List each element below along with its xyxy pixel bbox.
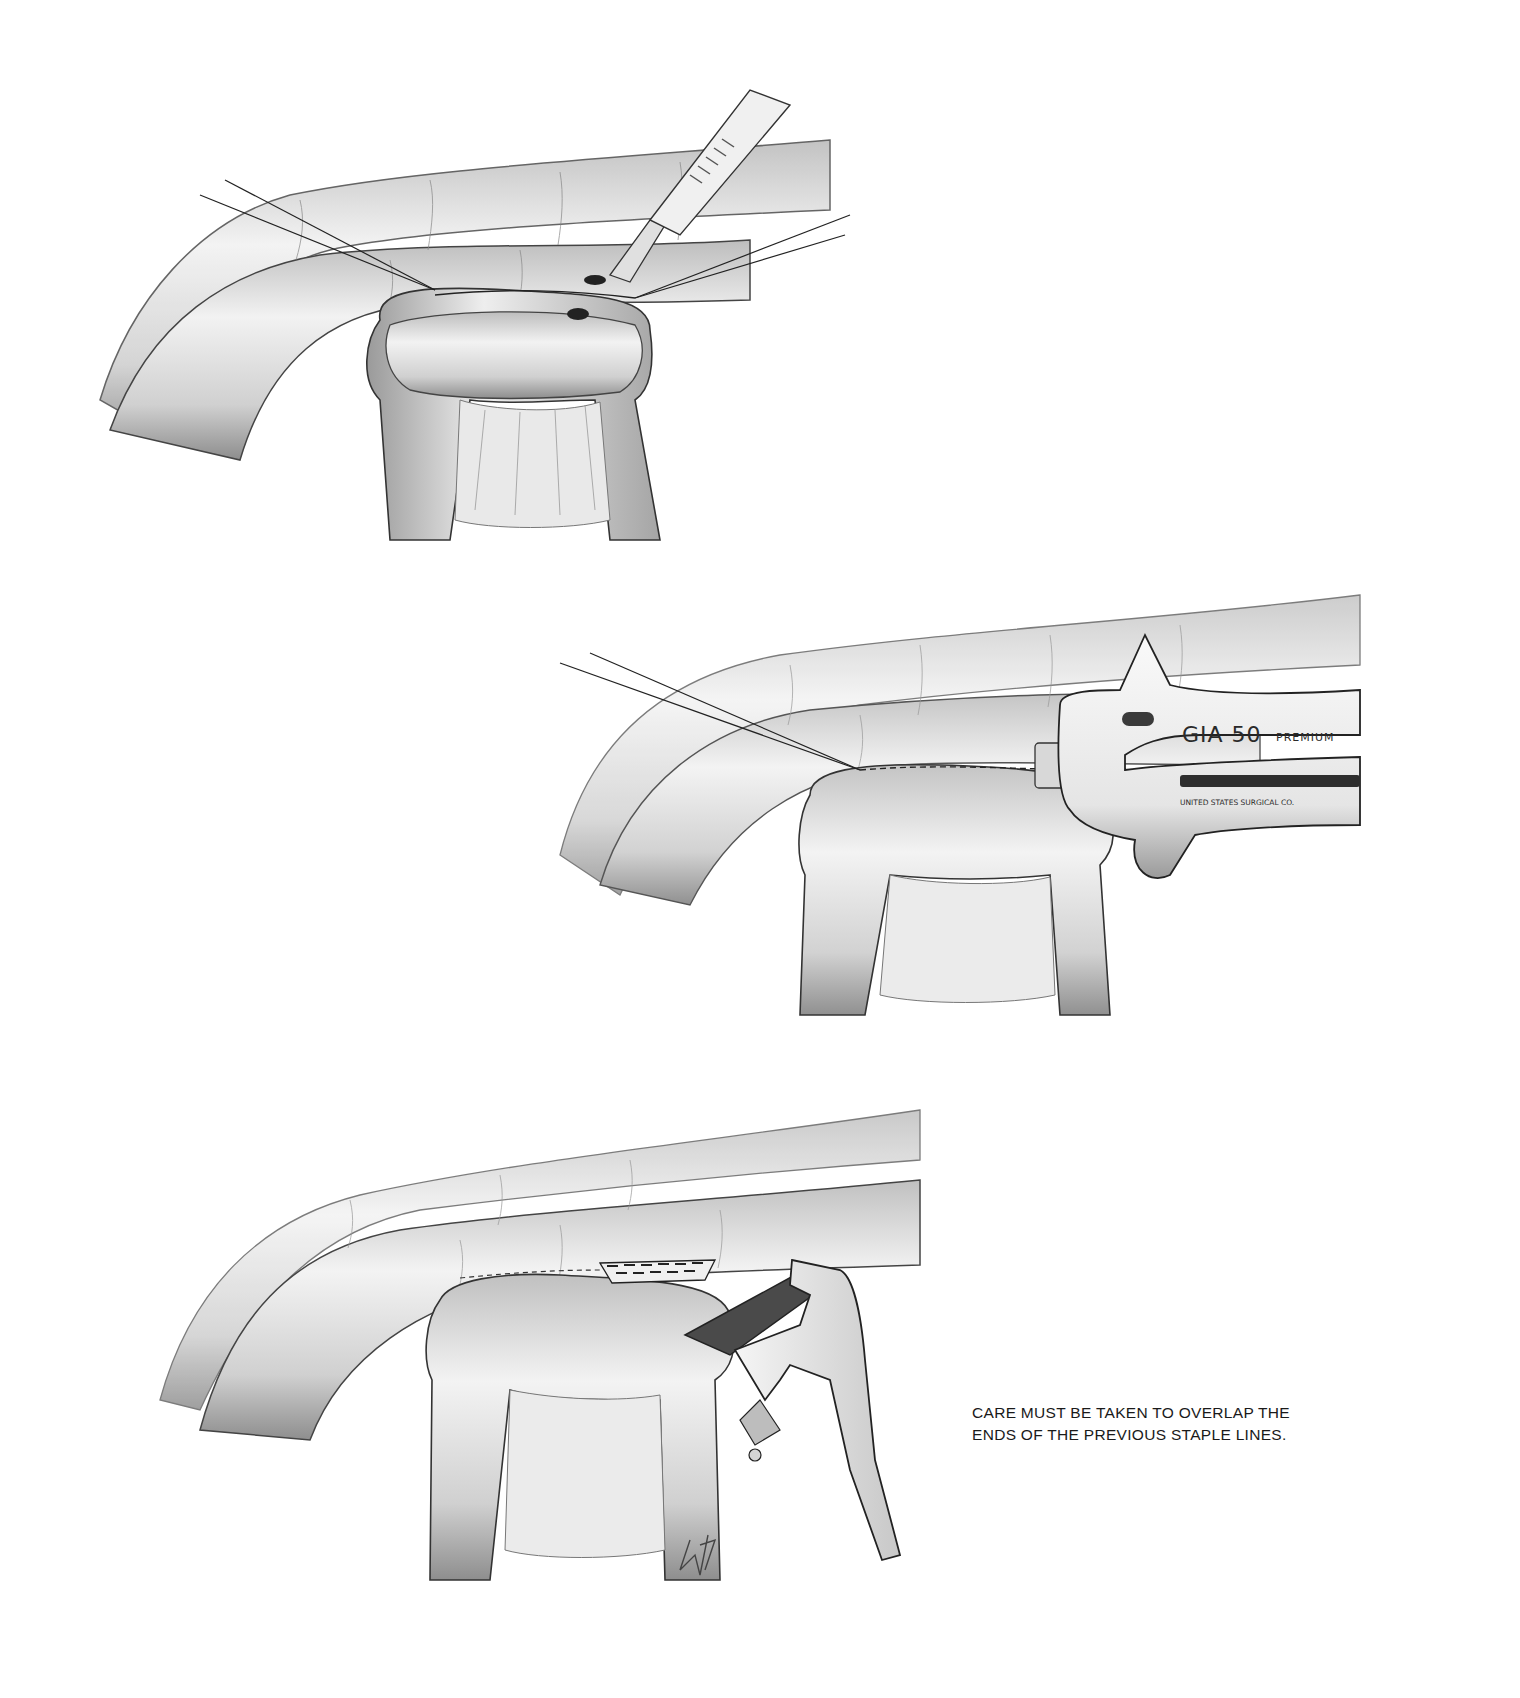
illustration-panel-3 (160, 1100, 1000, 1620)
bowel-ta-stapler-illustration (160, 1100, 1000, 1620)
illustration-panel-2: GIA 50 PREMIUM UNITED STATES SURGICAL CO… (560, 595, 1420, 1045)
bowel-scalpel-illustration (90, 100, 910, 600)
figure-caption: CARE MUST BE TAKEN TO OVERLAP THE ENDS O… (972, 1402, 1372, 1446)
stapler-model-label: GIA 50 (1182, 722, 1262, 747)
stapler-manufacturer-label: UNITED STATES SURGICAL CO. (1180, 798, 1294, 807)
staple-line-icon (600, 1260, 715, 1283)
caption-line-1: CARE MUST BE TAKEN TO OVERLAP THE (972, 1402, 1372, 1424)
bowel-stapler-illustration: GIA 50 PREMIUM UNITED STATES SURGICAL CO… (560, 595, 1420, 1045)
stapler-premium-label: PREMIUM (1276, 731, 1335, 744)
illustration-panel-1 (90, 100, 910, 600)
caption-line-2: ENDS OF THE PREVIOUS STAPLE LINES. (972, 1424, 1372, 1446)
